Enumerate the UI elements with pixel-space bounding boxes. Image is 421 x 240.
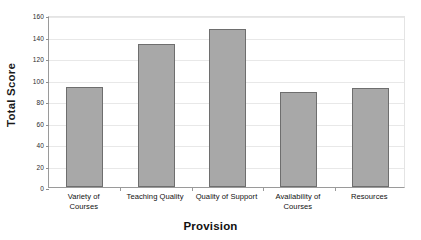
bar [280, 92, 317, 187]
y-axis-tick-label: 0 [6, 185, 48, 192]
gridline [49, 17, 404, 18]
x-axis-tick-label: Resources [326, 192, 413, 202]
y-axis-tick-mark [46, 60, 49, 61]
y-axis-tick-label: 60 [6, 120, 48, 127]
y-axis-tick-label: 40 [6, 142, 48, 149]
y-axis-tick-label: 160 [6, 13, 48, 20]
bar [66, 87, 103, 187]
x-axis-title: Provision [0, 220, 421, 232]
y-axis-tick-mark [46, 103, 49, 104]
y-axis-tick-mark [46, 17, 49, 18]
y-axis-tick-label: 100 [6, 77, 48, 84]
y-axis-tick-mark [46, 168, 49, 169]
x-axis-tick-labels: Variety ofCoursesTeaching QualityQuality… [48, 192, 405, 220]
y-axis-tick-label: 20 [6, 163, 48, 170]
y-axis-tick-label: 80 [6, 99, 48, 106]
y-axis-tick-label: 140 [6, 34, 48, 41]
y-axis-tick-mark [46, 146, 49, 147]
bar [209, 29, 246, 187]
x-axis-tick-mark [335, 187, 336, 191]
x-axis-tick-mark [263, 187, 264, 191]
plot-area [48, 16, 405, 188]
bar [138, 44, 175, 187]
bar-chart: Total Score 020406080100120140160 Variet… [0, 0, 421, 240]
y-axis-tick-mark [46, 39, 49, 40]
x-axis-tick-mark [192, 187, 193, 191]
y-axis-tick-mark [46, 125, 49, 126]
bar [352, 88, 389, 187]
y-axis-tick-label: 120 [6, 56, 48, 63]
y-axis-tick-mark [46, 189, 49, 190]
y-axis-tick-labels: 020406080100120140160 [0, 16, 48, 188]
x-axis-tick-mark [120, 187, 121, 191]
y-axis-tick-mark [46, 82, 49, 83]
